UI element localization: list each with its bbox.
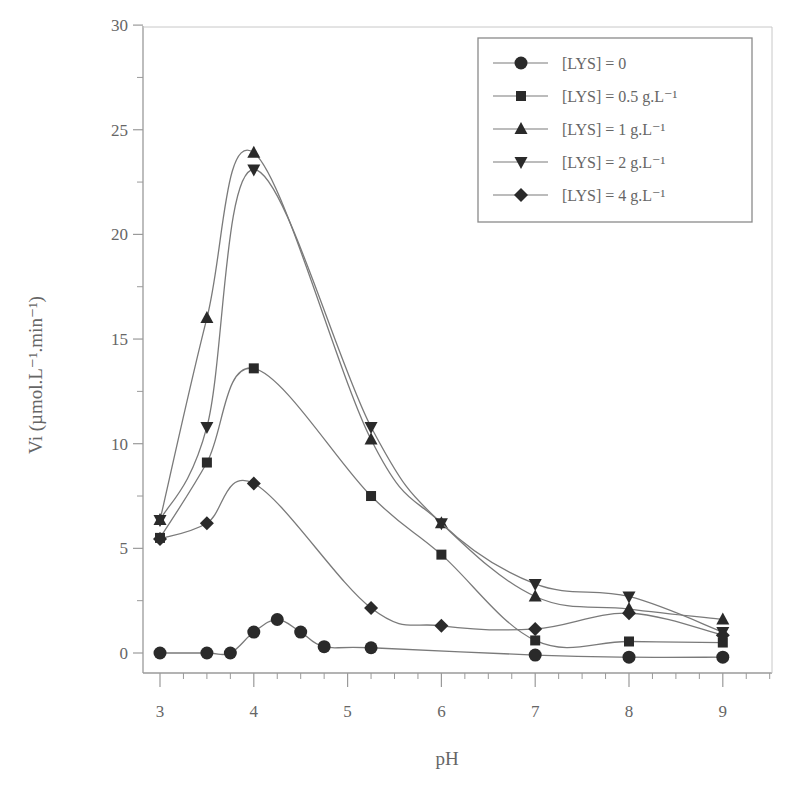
square-marker bbox=[249, 363, 259, 373]
data-series bbox=[153, 146, 730, 664]
triangle-up-marker bbox=[200, 311, 213, 323]
x-tick-label: 9 bbox=[719, 702, 728, 721]
x-axis-title: pH bbox=[435, 748, 459, 769]
x-axis: 3456789 bbox=[156, 673, 770, 721]
y-tick-label: 5 bbox=[120, 539, 129, 558]
x-tick-label: 5 bbox=[343, 702, 352, 721]
circle-marker bbox=[515, 57, 528, 70]
triangle-up-marker bbox=[247, 146, 260, 158]
triangle-down-marker bbox=[200, 422, 213, 434]
legend-label: [LYS] = 0 bbox=[562, 55, 626, 72]
circle-marker bbox=[224, 647, 237, 660]
y-tick-label: 20 bbox=[111, 225, 128, 244]
y-tick-label: 10 bbox=[111, 435, 128, 454]
series-triangle-down bbox=[154, 165, 730, 640]
triangle-up-marker bbox=[529, 589, 542, 601]
x-tick-label: 6 bbox=[437, 702, 446, 721]
diamond-marker bbox=[247, 476, 261, 490]
series-line bbox=[160, 170, 723, 633]
circle-marker bbox=[200, 647, 213, 660]
y-tick-label: 30 bbox=[111, 16, 128, 35]
y-axis-title: Vi (µmol.L⁻¹.min⁻¹) bbox=[25, 296, 47, 454]
diamond-marker bbox=[364, 601, 378, 615]
triangle-down-marker bbox=[365, 422, 378, 434]
triangle-down-marker bbox=[154, 515, 167, 527]
legend-label: [LYS] = 4 g.L⁻¹ bbox=[562, 187, 666, 205]
circle-marker bbox=[623, 651, 636, 664]
diamond-marker bbox=[528, 622, 542, 636]
legend-label: [LYS] = 0.5 g.L⁻¹ bbox=[562, 88, 678, 106]
x-tick-label: 3 bbox=[156, 702, 165, 721]
x-tick-label: 8 bbox=[625, 702, 634, 721]
series-line bbox=[160, 368, 723, 648]
legend: [LYS] = 0[LYS] = 0.5 g.L⁻¹[LYS] = 1 g.L⁻… bbox=[478, 38, 752, 222]
square-marker bbox=[624, 636, 634, 646]
circle-marker bbox=[247, 626, 260, 639]
y-axis: 051015202530 bbox=[111, 16, 143, 663]
square-marker bbox=[202, 458, 212, 468]
circle-marker bbox=[154, 647, 167, 660]
diamond-marker bbox=[434, 619, 448, 633]
x-tick-label: 4 bbox=[250, 702, 259, 721]
series-square bbox=[155, 363, 728, 647]
legend-label: [LYS] = 1 g.L⁻¹ bbox=[562, 121, 666, 139]
y-tick-label: 15 bbox=[111, 330, 128, 349]
square-marker bbox=[530, 635, 540, 645]
square-marker bbox=[516, 91, 526, 101]
circle-marker bbox=[365, 641, 378, 654]
y-tick-label: 25 bbox=[111, 121, 128, 140]
y-tick-label: 0 bbox=[120, 644, 129, 663]
circle-marker bbox=[294, 626, 307, 639]
circle-marker bbox=[716, 651, 729, 664]
x-tick-label: 7 bbox=[531, 702, 540, 721]
circle-marker bbox=[271, 613, 284, 626]
circle-marker bbox=[318, 640, 331, 653]
chart: 051015202530 3456789 [LYS] = 0[LYS] = 0.… bbox=[0, 0, 794, 787]
legend-label: [LYS] = 2 g.L⁻¹ bbox=[562, 154, 666, 172]
square-marker bbox=[366, 491, 376, 501]
circle-marker bbox=[529, 649, 542, 662]
square-marker bbox=[436, 550, 446, 560]
